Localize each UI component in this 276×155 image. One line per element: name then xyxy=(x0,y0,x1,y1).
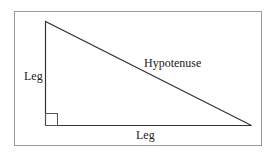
vertical-leg-label: Leg xyxy=(24,70,43,82)
right-angle-marker xyxy=(46,114,58,126)
hypotenuse-label: Hypotenuse xyxy=(144,57,201,69)
right-triangle xyxy=(46,22,252,126)
horizontal-leg-label: Leg xyxy=(136,129,155,141)
